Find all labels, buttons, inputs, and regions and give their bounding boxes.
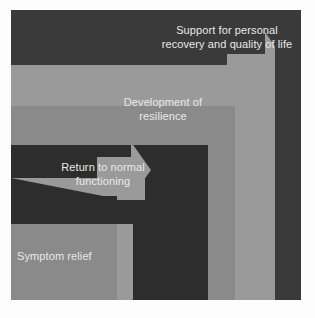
field-dark-lower-gap (141, 210, 166, 300)
diagram-stage: Support for personal recovery and qualit… (0, 0, 315, 318)
field-dark-far-right (275, 10, 301, 300)
arrow-riser-support (235, 56, 275, 300)
staircase-arrow-graphic (11, 10, 301, 300)
field-light-lower-left (11, 224, 117, 300)
field-light-upper-left (11, 106, 235, 145)
arrow-resilience-to-support-shaft (11, 65, 241, 106)
arrow-riser-resilience (166, 142, 208, 300)
diagram-canvas: Support for personal recovery and qualit… (11, 10, 301, 300)
